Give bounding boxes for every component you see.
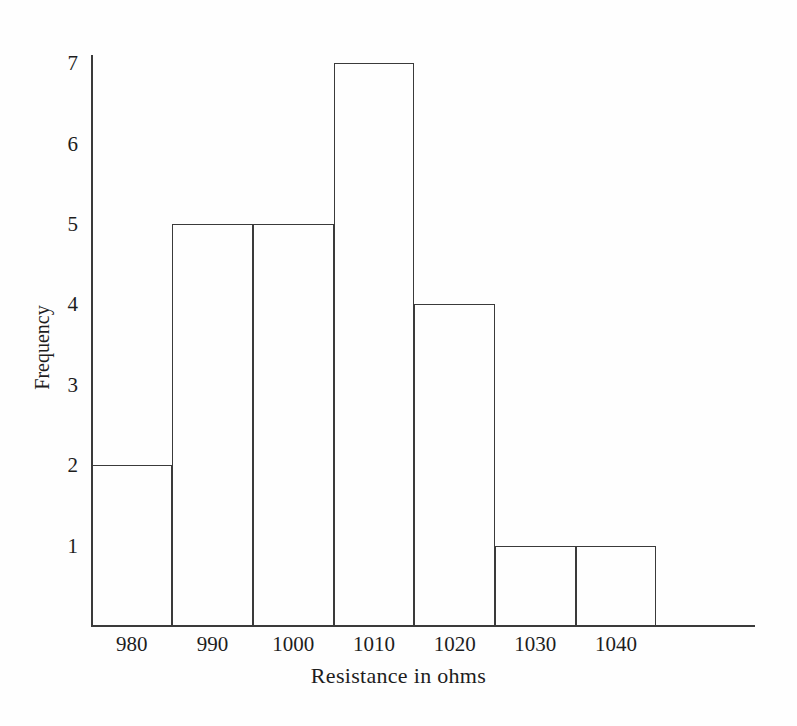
x-axis-tick-labels: 98099010001010102010301040 [0,0,797,726]
x-axis-title: Resistance in ohms [0,663,797,689]
x-tick-label: 1020 [414,634,495,655]
y-axis-title-wrapper: Frequency [20,280,50,420]
y-axis-title: Frequency [31,283,54,413]
x-tick-label: 1040 [576,634,657,655]
x-tick-label: 990 [172,634,253,655]
x-tick-label: 1010 [334,634,415,655]
histogram-figure: 1234567 98099010001010102010301040 Resis… [0,0,797,726]
x-tick-label: 1000 [253,634,334,655]
x-tick-label: 980 [92,634,173,655]
x-tick-label: 1030 [495,634,576,655]
